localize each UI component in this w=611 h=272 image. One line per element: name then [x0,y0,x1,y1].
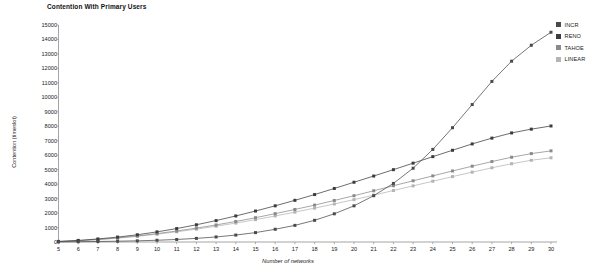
data-point-marker [254,231,257,234]
data-point-marker [392,189,395,192]
data-point-marker [550,149,553,152]
data-point-marker [274,212,277,215]
series-reno [57,124,553,242]
data-point-marker [510,162,513,165]
data-point-marker [392,182,395,185]
data-point-marker [510,60,513,63]
data-point-marker [451,175,454,178]
series-tahoe [57,149,553,243]
legend-swatch-icon [556,34,561,39]
legend-label: TAHOE [565,45,584,51]
data-point-marker [412,179,415,182]
legend-label: RENO [565,33,582,39]
series-incr [57,31,553,244]
data-point-marker [431,174,434,177]
data-point-marker [156,239,159,242]
series-line [59,151,552,242]
data-point-marker [471,171,474,174]
data-point-marker [372,194,375,197]
data-point-marker [274,204,277,207]
data-point-marker [412,184,415,187]
data-point-marker [392,168,395,171]
series-line [59,158,552,242]
series-linear [57,156,553,243]
data-point-marker [431,180,434,183]
data-point-marker [234,220,237,223]
data-point-marker [451,169,454,172]
legend-item-tahoe[interactable]: TAHOE [556,42,611,54]
data-point-marker [156,230,159,233]
legend-swatch-icon [556,45,561,50]
data-point-marker [175,227,178,230]
data-point-marker [510,131,513,134]
data-point-marker [234,234,237,237]
data-point-marker [254,210,257,213]
data-point-marker [175,238,178,241]
data-point-marker [234,214,237,217]
data-point-marker [57,240,60,243]
data-point-marker [550,31,553,34]
data-point-marker [96,240,99,243]
data-point-marker [353,194,356,197]
series-line [59,126,552,241]
data-point-marker [313,207,316,210]
data-point-marker [293,208,296,211]
data-point-marker [372,175,375,178]
data-point-marker [372,189,375,192]
data-point-marker [215,235,218,238]
data-point-marker [333,187,336,190]
legend-label: INCR [565,22,579,28]
data-point-marker [412,167,415,170]
data-point-marker [353,204,356,207]
data-point-marker [530,128,533,131]
data-point-marker [116,240,119,243]
data-point-marker [136,233,139,236]
data-point-marker [550,156,553,159]
data-point-marker [353,181,356,184]
legend-item-incr[interactable]: INCR [556,19,611,31]
data-point-marker [313,204,316,207]
data-point-marker [451,149,454,152]
data-point-marker [490,137,493,140]
data-point-marker [313,193,316,196]
data-point-marker [77,240,80,243]
legend-label: LINEAR [565,56,586,62]
data-point-marker [274,228,277,231]
data-point-marker [333,199,336,202]
data-point-marker [412,162,415,165]
data-point-marker [116,236,119,239]
data-point-marker [136,239,139,242]
data-point-marker [313,219,316,222]
data-point-marker [530,44,533,47]
data-point-marker [471,103,474,106]
data-point-marker [293,224,296,227]
legend-swatch-icon [556,22,561,27]
data-point-marker [293,211,296,214]
data-point-marker [451,126,454,129]
plot-area [0,0,611,272]
legend-swatch-icon [556,57,561,62]
data-point-marker [215,219,218,222]
legend-item-reno[interactable]: RENO [556,31,611,43]
data-point-marker [333,202,336,205]
data-point-marker [254,216,257,219]
data-point-marker [353,198,356,201]
data-point-marker [215,223,218,226]
chart-container: Contention With Primary Users Contention… [0,0,611,272]
data-point-marker [530,159,533,162]
data-point-marker [471,165,474,168]
data-point-marker [195,223,198,226]
data-point-marker [490,160,493,163]
data-point-marker [195,227,198,230]
data-point-marker [293,199,296,202]
data-point-marker [550,124,553,127]
data-point-marker [431,148,434,151]
data-point-marker [333,212,336,215]
data-point-marker [490,166,493,169]
data-point-marker [471,142,474,145]
data-point-marker [431,155,434,158]
data-point-marker [195,237,198,240]
data-point-marker [530,152,533,155]
legend-item-linear[interactable]: LINEAR [556,54,611,66]
chart-legend: INCRRENOTAHOELINEAR [556,19,611,65]
